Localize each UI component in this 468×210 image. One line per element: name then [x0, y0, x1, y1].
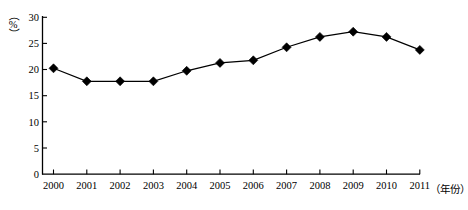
y-tick-label-10: 10	[29, 117, 40, 128]
x-tick-label-2007: 2007	[276, 180, 297, 191]
y-tick-label-5: 5	[34, 143, 39, 154]
y-tick-label-15: 15	[29, 90, 40, 101]
y-tick-label-30: 30	[29, 12, 40, 23]
x-tick-label-2005: 2005	[210, 180, 231, 191]
x-tick-label-2004: 2004	[176, 180, 198, 191]
x-tick-label-2006: 2006	[243, 180, 264, 191]
data-point-2002	[116, 77, 125, 86]
x-tick-label-2009: 2009	[343, 180, 364, 191]
data-point-2010	[382, 32, 391, 41]
data-point-2001	[82, 77, 91, 86]
data-point-2003	[149, 77, 158, 86]
x-axis-ticks	[54, 170, 420, 175]
x-axis: 2000 2001 2002 2003 2004 2005 2006 2007 …	[42, 170, 430, 192]
x-tick-label-2010: 2010	[376, 180, 397, 191]
y-tick-label-20: 20	[29, 64, 40, 75]
data-point-2009	[349, 27, 358, 36]
data-point-2006	[249, 56, 258, 65]
y-axis-tick-labels: 30 25 20 15 10 5 0	[29, 12, 40, 180]
y-axis: 30 25 20 15 10 5 0	[29, 12, 48, 180]
x-tick-label-2008: 2008	[309, 180, 330, 191]
y-axis-ticks	[43, 17, 48, 148]
series-line-path	[54, 32, 420, 82]
x-tick-label-2011: 2011	[409, 180, 430, 191]
y-tick-label-25: 25	[29, 38, 40, 49]
data-point-2008	[315, 32, 324, 41]
x-tick-label-2002: 2002	[110, 180, 131, 191]
data-point-2007	[282, 43, 291, 52]
x-axis-tick-labels: 2000 2001 2002 2003 2004 2005 2006 2007 …	[43, 180, 430, 191]
x-tick-label-2001: 2001	[76, 180, 97, 191]
series-markers	[49, 27, 424, 86]
data-point-2000	[49, 64, 58, 73]
x-axis-unit-label: （年份）	[430, 181, 468, 196]
x-tick-label-2003: 2003	[143, 180, 164, 191]
data-series	[49, 27, 424, 86]
data-point-2011	[415, 45, 424, 54]
data-point-2005	[216, 58, 225, 67]
data-point-2004	[182, 66, 191, 75]
y-tick-label-0: 0	[34, 169, 39, 180]
x-tick-label-2000: 2000	[43, 180, 64, 191]
